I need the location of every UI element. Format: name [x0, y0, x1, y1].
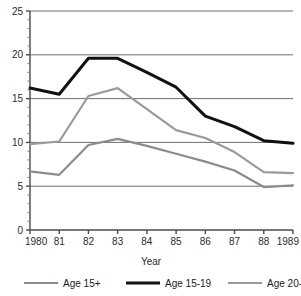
x-axis-title: Year: [141, 256, 162, 267]
x-tick-label: 87: [229, 236, 241, 247]
y-tick-label: 10: [12, 137, 24, 148]
x-tick-label: 83: [112, 236, 124, 247]
x-tick-label: 85: [171, 236, 183, 247]
y-tick-label: 0: [17, 225, 23, 236]
x-tick-label: 84: [141, 236, 153, 247]
x-tick-label: 86: [200, 236, 212, 247]
legend-label: Age 15+: [63, 278, 101, 289]
x-tick-label: 82: [83, 236, 95, 247]
legend-label: Age 15-19: [165, 278, 212, 289]
x-tick-label: 81: [54, 236, 66, 247]
y-tick-label: 20: [12, 49, 24, 60]
y-tick-label: 15: [12, 93, 24, 104]
chart-canvas: 0510152025 198081828384858687881989 Year…: [0, 0, 301, 296]
x-tick-label: 1989: [277, 236, 300, 247]
y-tick-label: 5: [17, 181, 23, 192]
line-chart: 0510152025 198081828384858687881989 Year…: [0, 0, 301, 296]
legend-label: Age 20-24: [267, 278, 301, 289]
x-tick-label: 1980: [25, 236, 48, 247]
x-tick-label: 88: [258, 236, 270, 247]
y-tick-label: 25: [12, 6, 24, 17]
